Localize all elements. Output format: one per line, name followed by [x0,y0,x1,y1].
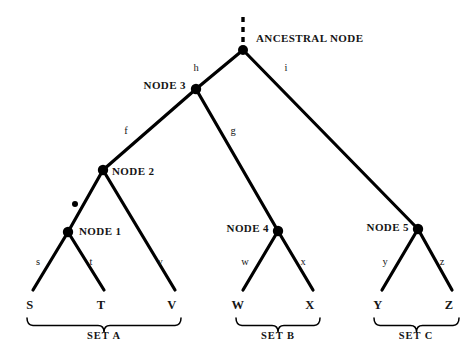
branch-label-x: x [300,257,305,268]
branch-label-f: f [124,126,128,137]
leaf-label-Y: Y [373,299,382,312]
node-label-node5: NODE 5 [367,222,409,233]
branch-g [196,89,278,231]
branch-u [68,170,103,232]
branch-z [418,229,452,290]
node-dots-group [63,45,423,237]
leaf-label-V: V [167,299,176,312]
leaf-label-S: S [26,299,33,312]
ancestral-node-label: ANCESTRAL NODE [256,33,363,44]
leaf-label-W: W [232,299,245,312]
node-label-node2: NODE 2 [112,166,154,177]
branch-label-z: z [440,257,445,268]
branch-i [243,50,418,229]
branch-marker-dot [72,201,78,207]
leaf-label-X: X [305,299,314,312]
set-label-setB: SET B [261,331,295,342]
leaf-label-T: T [97,299,106,312]
branch-lines-group [33,50,452,290]
branch-label-y: y [382,257,387,268]
branch-label-h: h [193,63,198,74]
node-label-node4: NODE 4 [227,223,269,234]
branch-label-v: v [157,257,162,268]
node-dot-node4 [273,226,283,236]
phylogenetic-tree-figure: hifgvstwxyzANCESTRAL NODENODE 3NODE 2NOD… [0,0,474,360]
branch-h [196,50,243,89]
node-dot-node1 [63,227,73,237]
node-dot-node2 [98,165,108,175]
branch-x [278,231,313,290]
branch-label-g: g [230,126,235,137]
node-label-node1: NODE 1 [79,226,121,237]
node-dot-node5 [413,224,423,234]
node-dot-node3 [191,84,201,94]
branch-label-s: s [36,257,40,268]
branch-f [103,89,196,170]
node-label-node3: NODE 3 [144,80,186,91]
set-label-setC: SET C [399,331,433,342]
branch-t [68,232,104,290]
branch-label-i: i [285,63,288,74]
branch-label-w: w [241,257,249,268]
branch-label-t: t [90,257,93,268]
ancestral-node-dot [238,45,248,55]
set-label-setA: SET A [87,331,121,342]
leaf-label-Z: Z [445,299,454,312]
